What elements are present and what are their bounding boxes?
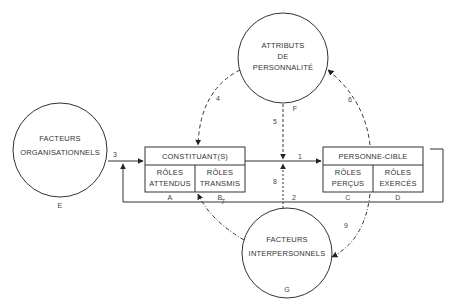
edge-label-8: 8 (273, 176, 277, 187)
edge-9 (332, 194, 370, 257)
edge-label-9: 9 (344, 220, 348, 231)
edge-label-6: 6 (348, 94, 352, 105)
cible-cell-C: RÔLES PERÇUS (323, 167, 373, 189)
edge-label-7: 7 (221, 196, 225, 207)
node-G-letter: G (280, 284, 294, 295)
node-F-label: ATTRIBUTS DE PERSONNALITÉ (238, 40, 328, 73)
edge-4 (198, 70, 240, 145)
cible-title: PERSONNE-CIBLE (323, 151, 423, 162)
edge-label-5: 5 (273, 116, 277, 127)
letter-C: C (341, 192, 355, 203)
edge-label-4: 4 (216, 93, 220, 104)
constituant-cell-A: RÔLES ATTENDUS (145, 167, 195, 189)
edge-label-3: 3 (113, 149, 117, 160)
edge-label-1: 1 (298, 151, 302, 162)
constituant-title: CONSTITUANT(S) (145, 151, 245, 162)
cible-cell-D: RÔLES EXERCÉS (373, 167, 423, 189)
edge-label-2: 2 (292, 192, 296, 203)
node-E-label: FACTEURS ORGANISATIONNELS (13, 133, 107, 158)
letter-D: D (391, 192, 405, 203)
letter-A: A (163, 192, 177, 203)
constituant-cell-B: RÔLES TRANSMIS (195, 167, 245, 189)
node-E-letter: E (53, 200, 67, 211)
edge-6 (328, 70, 370, 145)
node-G-label: FACTEURS INTERPERSONNELS (242, 234, 332, 259)
node-F-letter: F (290, 103, 300, 114)
